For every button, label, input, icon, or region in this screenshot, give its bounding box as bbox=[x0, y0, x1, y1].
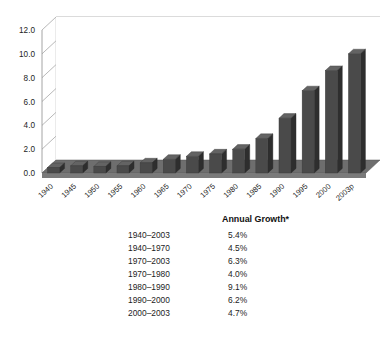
growth-value-cell: 5.4% bbox=[200, 229, 289, 242]
table-row: 1980–19909.1% bbox=[128, 281, 289, 294]
table-row: 1940–20035.4% bbox=[128, 229, 289, 242]
y-axis-tick-labels: 12.010.08.06.04.02.00.0 bbox=[19, 26, 35, 178]
chart-canvas: 12.010.08.06.04.02.00.0 1940194519501955… bbox=[0, 0, 388, 210]
y-tick-label: 0.0 bbox=[24, 169, 36, 178]
x-tick-label: 1985 bbox=[245, 182, 264, 200]
x-tick-label: 1950 bbox=[83, 182, 102, 200]
table-row: 1940–19704.5% bbox=[128, 242, 289, 255]
x-tick-label: 1990 bbox=[268, 182, 287, 200]
x-tick-label: 1975 bbox=[198, 182, 217, 200]
period-cell: 1980–1990 bbox=[128, 281, 200, 294]
growth-value-cell: 9.1% bbox=[200, 281, 289, 294]
x-tick-label: 1940 bbox=[36, 182, 55, 200]
growth-table-head: Annual Growth* bbox=[128, 214, 289, 229]
growth-value-cell: 6.2% bbox=[200, 294, 289, 307]
bar-chart-figure: 12.010.08.06.04.02.00.0 1940194519501955… bbox=[0, 0, 388, 210]
x-tick-label: 1960 bbox=[129, 182, 148, 200]
growth-value-cell: 4.5% bbox=[200, 242, 289, 255]
growth-table-body: 1940–20035.4%1940–19704.5%1970–20036.3%1… bbox=[128, 229, 289, 321]
table-row: 1990–20006.2% bbox=[128, 294, 289, 307]
x-tick-label: 1945 bbox=[59, 182, 78, 200]
growth-value-cell: 4.7% bbox=[200, 308, 289, 321]
period-cell: 1970–2003 bbox=[128, 255, 200, 268]
growth-value-cell: 4.0% bbox=[200, 268, 289, 281]
y-tick-label: 10.0 bbox=[19, 50, 35, 59]
x-tick-label: 1980 bbox=[221, 182, 240, 200]
period-cell: 1970–1980 bbox=[128, 268, 200, 281]
growth-value-cell: 6.3% bbox=[200, 255, 289, 268]
growth-column-header: Annual Growth* bbox=[200, 214, 289, 229]
annual-growth-table: Annual Growth* 1940–20035.4%1940–19704.5… bbox=[128, 214, 328, 321]
y-tick-label: 4.0 bbox=[24, 121, 36, 130]
x-tick-label: 1955 bbox=[106, 182, 125, 200]
growth-table-header-row: Annual Growth* bbox=[128, 214, 289, 229]
x-tick-label: 2000 bbox=[314, 182, 333, 200]
x-axis-tick-labels: 1940194519501955196019651970197519801985… bbox=[36, 182, 355, 203]
table-row: 1970–19804.0% bbox=[128, 268, 289, 281]
growth-table-element: Annual Growth* 1940–20035.4%1940–19704.5… bbox=[128, 214, 289, 321]
x-tick-label: 2003p bbox=[334, 182, 356, 203]
x-tick-label: 1995 bbox=[291, 182, 310, 200]
period-cell: 1990–2000 bbox=[128, 294, 200, 307]
table-row: 2000–20034.7% bbox=[128, 308, 289, 321]
x-tick-label: 1970 bbox=[175, 182, 194, 200]
period-cell: 1940–1970 bbox=[128, 242, 200, 255]
y-tick-label: 8.0 bbox=[24, 74, 36, 83]
period-column-header bbox=[128, 214, 200, 229]
y-tick-label: 6.0 bbox=[24, 98, 36, 107]
y-tick-label: 2.0 bbox=[24, 145, 36, 154]
period-cell: 1940–2003 bbox=[128, 229, 200, 242]
y-tick-label: 12.0 bbox=[19, 26, 35, 35]
x-tick-label: 1965 bbox=[152, 182, 171, 200]
table-row: 1970–20036.3% bbox=[128, 255, 289, 268]
period-cell: 2000–2003 bbox=[128, 308, 200, 321]
